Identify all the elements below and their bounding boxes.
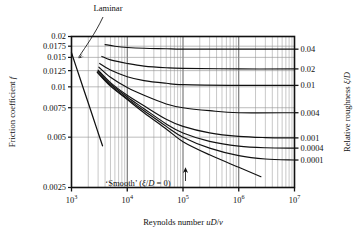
- xtick-label: 104: [122, 193, 133, 204]
- grid-minor: [88, 37, 292, 188]
- ytick-label-left: 0.0175: [43, 42, 66, 51]
- smooth-label: ‘Smooth’ (ξ/D = 0): [105, 178, 171, 188]
- moody-chart-figure: 0.020.01750.0150.01250.010.00750.0050.00…: [0, 0, 360, 241]
- ytick-label-right: 0.0004: [301, 144, 325, 153]
- xtick-label: 106: [233, 193, 244, 204]
- ytick-label-right: 0.0001: [301, 156, 324, 165]
- ytick-label-left: 0.0025: [43, 183, 66, 192]
- ytick-label-right: 0.01: [301, 81, 316, 90]
- ytick-label-left: 0.02: [51, 32, 66, 41]
- ytick-label-left: 0.005: [47, 133, 66, 142]
- xtick-label: 107: [289, 193, 300, 204]
- xtick-label: 103: [66, 193, 77, 204]
- ytick-label-right: 0.004: [301, 109, 321, 118]
- ytick-label-right: 0.04: [301, 45, 316, 54]
- ytick-label-left: 0.0075: [43, 104, 66, 113]
- moody-chart-svg: 0.020.01750.0150.01250.010.00750.0050.00…: [0, 0, 360, 241]
- ytick-label-right: 0.001: [301, 134, 320, 143]
- ytick-label-left: 0.015: [47, 53, 66, 62]
- ytick-label-left: 0.01: [51, 83, 66, 92]
- ytick-label-left: 0.0125: [43, 67, 66, 76]
- y-axis-title-left: Friction coefficient f: [7, 75, 17, 147]
- annotations-layer: Laminar‘Smooth’ (ξ/D = 0): [79, 3, 189, 188]
- y-axis-title-right: Relative roughness ξ/D: [342, 71, 352, 152]
- laminar-label: Laminar: [93, 3, 122, 13]
- ytick-label-right: 0.02: [301, 65, 316, 74]
- x-axis-title: Reynolds number uD/ν: [143, 217, 223, 227]
- xtick-label: 105: [177, 193, 188, 204]
